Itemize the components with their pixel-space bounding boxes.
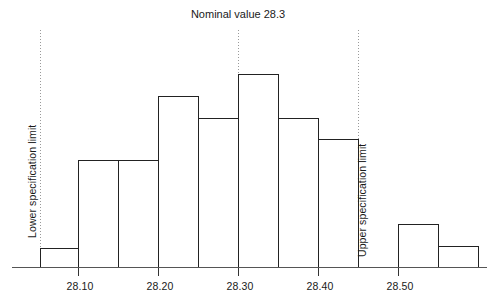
x-axis-ticks [79,268,399,277]
bar-bin-1 [41,249,79,268]
plot-area: Lower specification limit Upper specific… [0,0,493,307]
x-tick-label-28-30: 28.30 [227,280,254,292]
x-tick-label-28-20: 28.20 [147,280,174,292]
bar-bin-3 [119,161,159,268]
bar-bin-6 [239,75,279,268]
upper-specification-limit-label: Upper specification limit [356,144,368,257]
bar-bin-11 [439,247,479,268]
bar-bin-7 [279,119,319,268]
x-tick-label-28-50: 28.50 [387,280,414,292]
bar-bin-8 [319,140,359,268]
histogram-chart: Nominal value 28.3 [0,0,493,307]
bar-bin-2 [79,161,119,268]
x-tick-label-28-10: 28.10 [67,280,94,292]
bar-bin-5 [199,119,239,268]
histogram-bars [41,75,479,268]
x-tick-label-28-40: 28.40 [307,280,334,292]
bar-bin-10 [399,225,439,268]
bar-bin-4 [159,97,199,268]
guide-lines [41,30,359,267]
plot-svg [0,0,493,307]
lower-specification-limit-label: Lower specification limit [26,125,38,238]
